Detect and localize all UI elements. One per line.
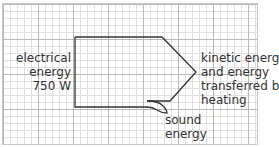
output-label-line: and energy [201,65,279,79]
output-label-line: transferred by [201,79,279,93]
output-label-line: sound [165,113,207,127]
output-label-line: energy [165,127,207,141]
input-label-electrical-energy: electrical energy 750 W [7,51,71,93]
input-label-line: electrical [7,51,71,65]
output-label-kinetic-heating: kinetic energy and energy transferred by… [201,51,279,107]
output-label-line: heating [201,93,279,107]
output-label-line: kinetic energy [201,51,279,65]
sound-branch-arrow [147,101,167,113]
input-band-edge [75,37,147,107]
output-label-sound: sound energy [165,113,207,141]
main-energy-band [75,37,196,101]
input-label-line: energy [7,65,71,79]
input-power-value: 750 W [7,79,71,93]
